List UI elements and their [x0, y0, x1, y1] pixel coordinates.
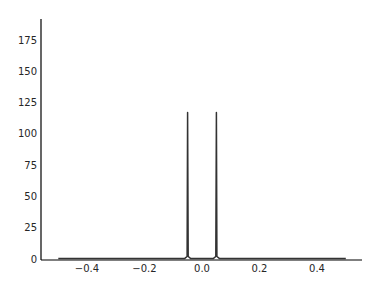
- y-tick-label: 75: [24, 160, 37, 171]
- x-tick-label: −0.4: [75, 263, 99, 274]
- y-tick-label: 150: [18, 66, 37, 77]
- x-tick-label: 0.0: [194, 263, 210, 274]
- y-tick-label: 175: [18, 35, 37, 46]
- chart: 0255075100125150175 −0.4−0.20.00.20.4: [0, 0, 381, 288]
- y-tick-label: 0: [31, 254, 37, 265]
- x-tick-label: −0.2: [132, 263, 156, 274]
- y-tick-label: 25: [24, 222, 37, 233]
- y-axis-ticks: 0255075100125150175: [18, 35, 37, 265]
- x-axis-ticks: −0.4−0.20.00.20.4: [75, 263, 325, 274]
- y-tick-label: 50: [24, 191, 37, 202]
- plot-area: [58, 113, 346, 259]
- x-tick-label: 0.4: [309, 263, 325, 274]
- y-tick-label: 125: [18, 97, 37, 108]
- series-line: [58, 113, 346, 259]
- x-tick-label: 0.2: [252, 263, 268, 274]
- y-tick-label: 100: [18, 128, 37, 139]
